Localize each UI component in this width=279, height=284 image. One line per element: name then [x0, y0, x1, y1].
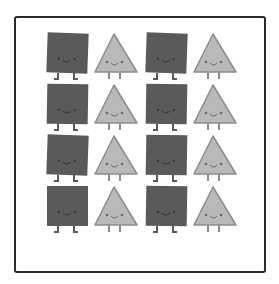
smiling-triangle-character [94, 84, 139, 132]
smiling-square-character [145, 33, 189, 81]
smiling-triangle-character [193, 186, 238, 234]
smiling-triangle-character [193, 84, 238, 132]
shape-pattern-grid [0, 0, 279, 284]
smiling-square-character [145, 84, 189, 132]
smiling-square-character [46, 135, 90, 183]
smiling-triangle-character [94, 186, 139, 234]
smiling-triangle-character [94, 135, 139, 183]
smiling-triangle-character [94, 33, 139, 81]
smiling-triangle-character [193, 135, 238, 183]
smiling-square-character [145, 186, 189, 234]
smiling-square-character [46, 33, 90, 81]
smiling-triangle-character [193, 33, 238, 81]
smiling-square-character [46, 186, 90, 234]
smiling-square-character [46, 84, 90, 132]
smiling-square-character [145, 135, 189, 183]
